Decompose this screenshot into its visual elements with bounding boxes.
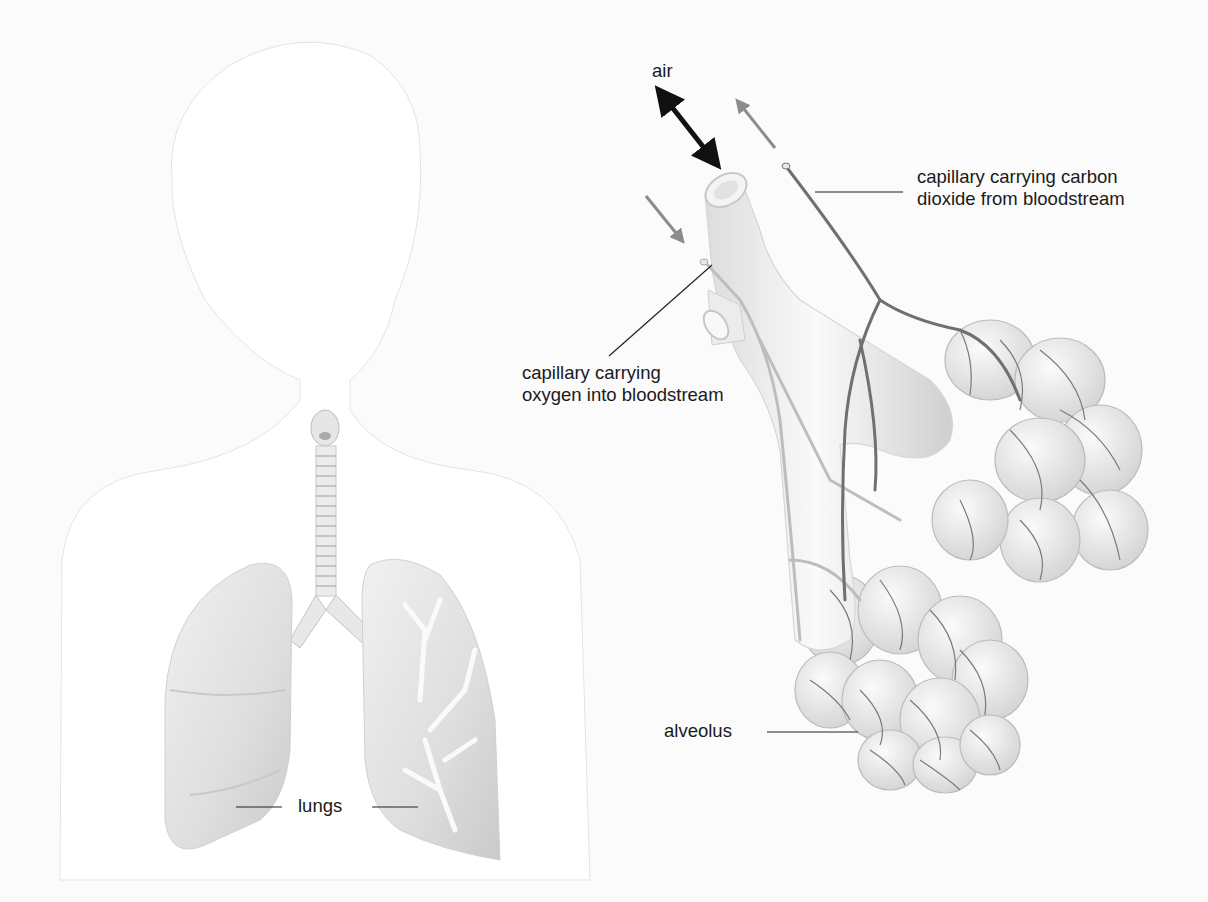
diagram-artwork [0,0,1208,902]
label-co2-capillary: capillary carrying carbon dioxide from b… [917,166,1125,210]
alveoli-cluster [699,163,1148,793]
label-o2-capillary: capillary carrying oxygen into bloodstre… [522,362,724,406]
label-alveolus: alveolus [664,720,732,742]
label-lungs: lungs [298,795,342,817]
label-air: air [652,60,673,82]
co2-out-arrow-icon [740,104,775,148]
air-arrow-icon [664,97,712,158]
label-o2-line1: capillary carrying [522,362,724,384]
o2-leader-line [609,265,712,356]
o2-in-arrow-icon [646,196,680,238]
label-co2-line2: dioxide from bloodstream [917,188,1125,210]
label-o2-line2: oxygen into bloodstream [522,384,724,406]
respiratory-diagram: air capillary carrying carbon dioxide fr… [0,0,1208,902]
label-co2-line1: capillary carrying carbon [917,166,1125,188]
larynx [311,410,339,446]
